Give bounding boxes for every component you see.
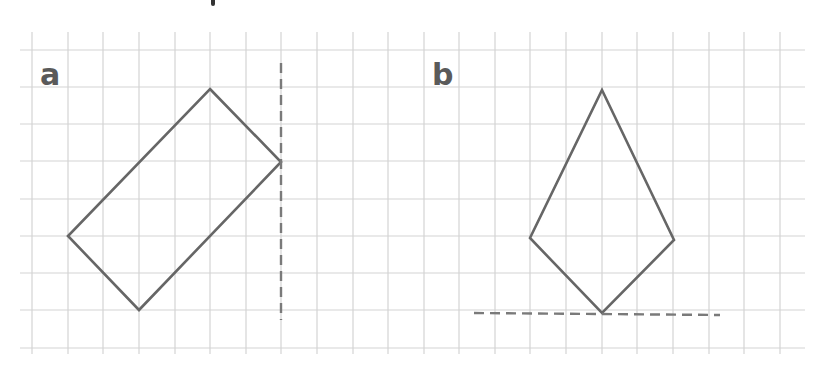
shapes-layer [68, 63, 720, 320]
symmetry-grid-diagram [0, 0, 829, 377]
panel-label-a: a [40, 60, 60, 90]
square-grid [20, 32, 805, 354]
panel-label-b: b [432, 60, 453, 90]
mirror-line-horizontal-b [474, 313, 720, 315]
